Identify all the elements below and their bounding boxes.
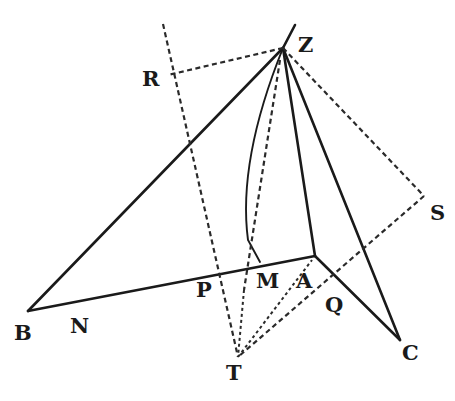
label-s: S <box>430 200 445 225</box>
label-m: M <box>256 268 279 293</box>
geometry-diagram: Z R S B N P M A Q C T <box>0 0 455 401</box>
label-p: P <box>196 277 212 302</box>
label-r: R <box>142 66 160 91</box>
line-z-extension <box>283 25 295 48</box>
dashed-line-z-s <box>283 48 424 196</box>
label-n: N <box>70 313 89 338</box>
dashed-line-z-r <box>168 48 283 75</box>
label-a: A <box>295 268 313 293</box>
line-z-a <box>283 48 315 256</box>
dashed-line-z-m <box>244 60 280 290</box>
label-q: Q <box>325 292 343 317</box>
label-t: T <box>226 360 242 385</box>
label-z: Z <box>298 32 313 57</box>
dashed-line-m-t <box>238 290 244 357</box>
label-c: C <box>402 340 419 365</box>
label-b: B <box>14 320 32 345</box>
